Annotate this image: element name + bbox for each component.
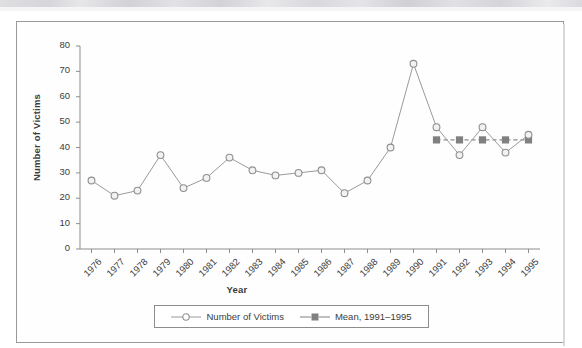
legend-label-mean: Mean, 1991–1995 bbox=[335, 311, 412, 322]
data-point-marker bbox=[295, 170, 302, 177]
data-point-marker bbox=[111, 192, 118, 199]
y-axis-ticks bbox=[76, 46, 80, 249]
mean-point-marker bbox=[502, 136, 509, 143]
data-point-marker bbox=[180, 185, 187, 192]
data-point-marker bbox=[341, 190, 348, 197]
data-point-marker bbox=[433, 124, 440, 131]
open-circle-marker-icon bbox=[171, 311, 201, 323]
filled-square-marker-icon bbox=[300, 311, 330, 323]
y-tick-label: 50 bbox=[44, 115, 70, 126]
mean-point-marker bbox=[456, 136, 463, 143]
data-point-marker bbox=[134, 187, 141, 194]
y-tick-label: 10 bbox=[44, 217, 70, 228]
mean-point-marker bbox=[479, 136, 486, 143]
y-tick-label: 0 bbox=[44, 242, 70, 253]
data-point-marker bbox=[410, 60, 417, 67]
y-tick-label: 70 bbox=[44, 64, 70, 75]
data-point-marker bbox=[456, 152, 463, 159]
x-axis-ticks bbox=[92, 249, 529, 253]
chart-plot-area: 01020304050607080 1976197719781979198019… bbox=[17, 22, 565, 344]
data-point-marker bbox=[525, 131, 532, 138]
legend-item-victims: Number of Victims bbox=[171, 311, 283, 323]
data-point-marker bbox=[157, 152, 164, 159]
legend-label-victims: Number of Victims bbox=[206, 311, 283, 322]
scan-artifact-strip bbox=[0, 0, 582, 7]
data-point-marker bbox=[479, 124, 486, 131]
figure-frame: 01020304050607080 1976197719781979198019… bbox=[16, 21, 564, 343]
line-chart-svg bbox=[17, 22, 565, 344]
victims-series-line bbox=[92, 64, 529, 196]
y-tick-label: 30 bbox=[44, 166, 70, 177]
y-tick-label: 20 bbox=[44, 191, 70, 202]
scan-artifact-strip-secondary bbox=[0, 7, 582, 11]
data-point-marker bbox=[226, 154, 233, 161]
y-tick-label: 60 bbox=[44, 90, 70, 101]
y-tick-label: 40 bbox=[44, 141, 70, 152]
data-point-marker bbox=[387, 144, 394, 151]
data-point-marker bbox=[249, 167, 256, 174]
legend-item-mean: Mean, 1991–1995 bbox=[300, 311, 412, 323]
y-tick-label: 80 bbox=[44, 39, 70, 50]
y-axis-title: Number of Victims bbox=[31, 78, 42, 198]
victims-series-markers bbox=[88, 60, 532, 199]
data-point-marker bbox=[272, 172, 279, 179]
data-point-marker bbox=[318, 167, 325, 174]
data-point-marker bbox=[88, 177, 95, 184]
mean-point-marker bbox=[433, 136, 440, 143]
x-axis-title: Year bbox=[17, 284, 457, 295]
data-point-marker bbox=[203, 175, 210, 182]
data-point-marker bbox=[502, 149, 509, 156]
data-point-marker bbox=[364, 177, 371, 184]
chart-legend: Number of Victims Mean, 1991–1995 bbox=[154, 305, 429, 328]
